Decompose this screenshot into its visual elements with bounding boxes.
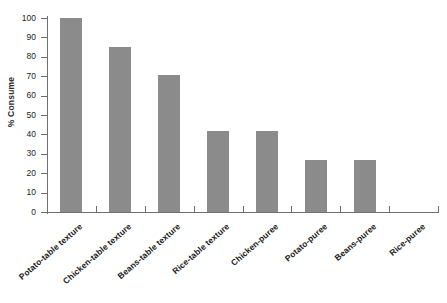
y-tick-mark <box>41 134 48 135</box>
x-tick-mark <box>194 206 195 213</box>
x-tick-mark <box>291 206 292 213</box>
y-tick-mark <box>41 154 48 155</box>
bar <box>354 160 376 212</box>
y-tick-mark <box>41 173 48 174</box>
y-tick-label: 100 <box>0 14 36 23</box>
y-tick-label: 50 <box>0 111 36 120</box>
x-tick-mark <box>438 206 439 213</box>
figure-caption <box>8 296 438 303</box>
y-tick-mark <box>41 193 48 194</box>
x-tick-label: Potato-table texture <box>0 221 85 303</box>
y-tick-mark <box>41 57 48 58</box>
y-tick-label: 90 <box>0 33 36 42</box>
y-tick-label: 20 <box>0 169 36 178</box>
x-tick-mark <box>145 206 146 213</box>
x-tick-mark <box>389 206 390 213</box>
bar <box>305 160 327 212</box>
y-tick-label: 40 <box>0 130 36 139</box>
x-tick-mark <box>243 206 244 213</box>
y-tick-label: 80 <box>0 52 36 61</box>
bar-chart: % Consume 0102030405060708090100 Potato-… <box>0 0 447 303</box>
x-tick-mark <box>340 206 341 213</box>
x-tick-mark <box>96 206 97 213</box>
y-tick-label: 60 <box>0 91 36 100</box>
y-tick-label: 0 <box>0 208 36 217</box>
bar <box>60 18 82 212</box>
y-tick-mark <box>41 37 48 38</box>
y-tick-label: 10 <box>0 188 36 197</box>
bar <box>256 131 278 212</box>
bar <box>158 75 180 212</box>
y-tick-mark <box>41 18 48 19</box>
bar <box>207 131 229 212</box>
x-tick-mark <box>47 206 48 213</box>
bar <box>109 47 131 212</box>
y-tick-mark <box>41 96 48 97</box>
y-tick-label: 30 <box>0 149 36 158</box>
y-tick-mark <box>41 76 48 77</box>
y-tick-mark <box>41 115 48 116</box>
y-tick-label: 70 <box>0 72 36 81</box>
